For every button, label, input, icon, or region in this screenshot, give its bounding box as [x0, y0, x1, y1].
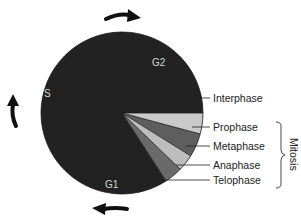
arrow-top-icon [106, 15, 130, 20]
arrow-bottom-icon [104, 208, 127, 209]
label-g1: G1 [105, 179, 119, 190]
arrow-left-head-icon [7, 94, 19, 106]
label-metaphase: Metaphase [213, 140, 265, 152]
mitosis-bracket [276, 122, 285, 188]
label-prophase: Prophase [213, 121, 258, 133]
label-mitosis: Mitosis [288, 138, 300, 171]
label-g2: G2 [152, 57, 166, 68]
label-telophase: Telophase [213, 174, 261, 186]
label-s: S [44, 88, 51, 99]
arrow-top-head-icon [127, 9, 141, 22]
arrow-left-icon [12, 104, 16, 126]
label-interphase: Interphase [213, 92, 263, 104]
cell-cycle-diagram: S G2 G1 Interphase Prophase Metaphase An… [0, 0, 301, 220]
arrow-bottom-head-icon [92, 203, 106, 215]
label-anaphase: Anaphase [213, 159, 260, 171]
